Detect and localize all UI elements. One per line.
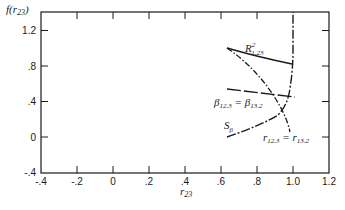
label-s-beta: Sβ (224, 119, 234, 134)
y-tick-0.8: .8 (28, 61, 37, 72)
plot-svg: 1.2 .8 .4 0 -.4 -.4 -.2 0 .2 .4 .6 .8 1.… (0, 0, 345, 210)
y-tick-1.2: 1.2 (22, 25, 36, 36)
label-beta-equal: β12.3 = β13.2 (213, 96, 263, 110)
x-tick-0.2: .2 (145, 176, 154, 187)
x-tick-labels: -.4 -.2 0 .2 .4 .6 .8 1.0 1.2 (35, 176, 336, 187)
x-tick-0: 0 (110, 176, 116, 187)
x-tick-0.8: .8 (253, 176, 262, 187)
y-tick-0.4: .4 (28, 96, 37, 107)
y-axis-title: f(r23) (6, 3, 29, 17)
x-axis-title: r23 (180, 185, 192, 199)
y-ticks (41, 31, 329, 138)
x-ticks (77, 12, 293, 173)
y-tick-labels: 1.2 .8 .4 0 -.4 (22, 25, 36, 178)
x-tick-0.6: .6 (217, 176, 226, 187)
x-tick-1.0: 1.0 (286, 176, 300, 187)
y-tick-0: 0 (30, 132, 36, 143)
label-r-squared: R21.23 (244, 41, 264, 57)
chart: 1.2 .8 .4 0 -.4 -.4 -.2 0 .2 .4 .6 .8 1.… (0, 0, 345, 210)
x-tick-neg0.2: -.2 (71, 176, 83, 187)
x-tick-neg0.4: -.4 (35, 176, 47, 187)
curve-s-beta (227, 12, 293, 137)
plot-frame (41, 12, 329, 173)
label-r-equal: r12.3 = r13.2 (263, 131, 310, 145)
x-tick-1.2: 1.2 (322, 176, 336, 187)
